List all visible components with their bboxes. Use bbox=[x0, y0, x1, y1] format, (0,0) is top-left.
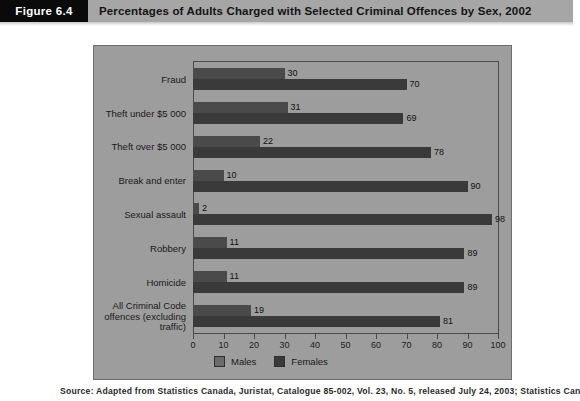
bar-males bbox=[193, 237, 227, 248]
bar-rows-container: Fraud3070Theft under $5 0003169Theft ove… bbox=[193, 62, 498, 333]
x-axis-tick bbox=[193, 334, 194, 339]
category-label: Sexual assault bbox=[71, 210, 186, 221]
bar-value-females: 89 bbox=[467, 248, 477, 259]
bar-value-males: 19 bbox=[254, 305, 264, 316]
x-axis-tick-label: 60 bbox=[371, 340, 381, 350]
x-axis-tick bbox=[285, 334, 286, 339]
bar-males bbox=[193, 170, 224, 181]
bar-row: All Criminal Code offences (excluding tr… bbox=[193, 299, 498, 333]
bar-value-females: 89 bbox=[467, 282, 477, 293]
bar-value-males: 30 bbox=[288, 68, 298, 79]
bar-row: Robbery1189 bbox=[193, 231, 498, 265]
category-label: Robbery bbox=[71, 244, 186, 255]
x-axis-tick-label: 90 bbox=[462, 340, 472, 350]
x-axis-tick bbox=[437, 334, 438, 339]
bar-males bbox=[193, 68, 285, 79]
category-label: Fraud bbox=[71, 75, 186, 86]
bar-value-males: 22 bbox=[263, 136, 273, 147]
bar-value-males: 11 bbox=[230, 237, 239, 248]
legend-item-males: Males bbox=[214, 356, 256, 367]
figure-header: Figure 6.4 Percentages of Adults Charged… bbox=[0, 0, 573, 22]
bar-females bbox=[193, 282, 464, 293]
x-axis-tick bbox=[498, 334, 499, 339]
legend-swatch-females-icon bbox=[274, 356, 285, 367]
bar-value-females: 98 bbox=[495, 214, 505, 225]
bar-value-males: 2 bbox=[202, 203, 207, 214]
bar-females bbox=[193, 316, 440, 327]
bar-row: Homicide1189 bbox=[193, 265, 498, 299]
bar-males bbox=[193, 271, 227, 282]
bar-males bbox=[193, 102, 288, 113]
source-note: Source: Adapted from Statistics Canada, … bbox=[60, 386, 580, 396]
x-axis-tick bbox=[407, 334, 408, 339]
bar-females bbox=[193, 113, 403, 124]
bar-value-females: 70 bbox=[410, 79, 420, 90]
legend-label-females: Females bbox=[291, 356, 327, 367]
figure-title: Percentages of Adults Charged with Selec… bbox=[88, 0, 573, 22]
category-label: Theft under $5 000 bbox=[71, 109, 186, 120]
chart-panel: Fraud3070Theft under $5 0003169Theft ove… bbox=[93, 45, 512, 380]
x-axis-tick-label: 40 bbox=[310, 340, 320, 350]
bar-females bbox=[193, 79, 407, 90]
bar-row: Fraud3070 bbox=[193, 62, 498, 96]
bar-females bbox=[193, 181, 468, 192]
bar-males bbox=[193, 305, 251, 316]
legend-item-females: Females bbox=[274, 356, 327, 367]
x-axis-tick bbox=[254, 334, 255, 339]
header-shadow bbox=[0, 22, 573, 26]
x-axis-tick-label: 0 bbox=[190, 340, 195, 350]
x-axis-tick bbox=[224, 334, 225, 339]
bar-value-males: 31 bbox=[291, 102, 301, 113]
x-axis-tick-label: 50 bbox=[340, 340, 350, 350]
bar-value-females: 81 bbox=[443, 316, 453, 327]
legend-swatch-males-icon bbox=[214, 356, 225, 367]
x-axis-tick-label: 80 bbox=[432, 340, 442, 350]
x-axis-tick-label: 10 bbox=[218, 340, 228, 350]
category-label: Break and enter bbox=[71, 176, 186, 187]
x-axis-tick bbox=[468, 334, 469, 339]
bar-row: Break and enter1090 bbox=[193, 164, 498, 198]
chart-legend: Males Females bbox=[214, 356, 328, 367]
bar-value-females: 90 bbox=[471, 181, 481, 192]
category-label: Homicide bbox=[71, 278, 186, 289]
bar-row: Sexual assault298 bbox=[193, 198, 498, 232]
bar-females bbox=[193, 214, 492, 225]
x-axis-tick-label: 70 bbox=[401, 340, 411, 350]
bar-value-males: 10 bbox=[227, 170, 237, 181]
bar-females bbox=[193, 248, 464, 259]
x-axis-tick-label: 100 bbox=[490, 340, 505, 350]
x-axis-tick-label: 30 bbox=[279, 340, 289, 350]
category-label: All Criminal Code offences (excluding tr… bbox=[71, 301, 186, 333]
legend-label-males: Males bbox=[231, 356, 256, 367]
bar-females bbox=[193, 147, 431, 158]
category-label: Theft over $5 000 bbox=[71, 142, 186, 153]
x-axis-tick bbox=[315, 334, 316, 339]
bar-value-females: 69 bbox=[406, 113, 416, 124]
x-axis-tick bbox=[376, 334, 377, 339]
bar-value-males: 11 bbox=[230, 271, 239, 282]
bar-males bbox=[193, 136, 260, 147]
bar-row: Theft under $5 0003169 bbox=[193, 96, 498, 130]
x-axis-tick-label: 20 bbox=[249, 340, 259, 350]
figure-number-tag: Figure 6.4 bbox=[0, 0, 88, 22]
bar-males bbox=[193, 203, 199, 214]
bar-value-females: 78 bbox=[434, 147, 444, 158]
bar-row: Theft over $5 0002278 bbox=[193, 130, 498, 164]
x-axis-tick bbox=[346, 334, 347, 339]
